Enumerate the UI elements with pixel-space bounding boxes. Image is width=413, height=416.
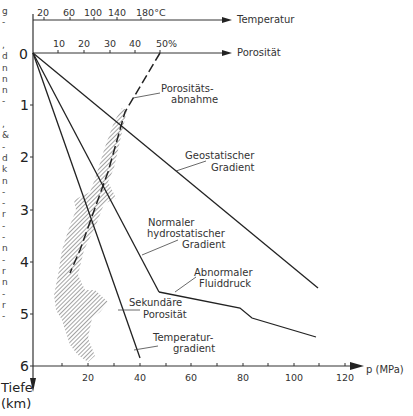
hydrostatic-label: Normaler [148,217,195,228]
temperature-gradient-label: gradient [173,343,215,354]
por-tick: 40 [129,38,141,49]
depth-tick: 1 [20,97,29,113]
pressure-tick: 60 [185,372,197,383]
margin-text-fragment: - [2,232,5,242]
depth-tick: 0 [19,46,28,62]
margin-text-fragment: n [2,277,8,287]
margin-text-fragment: - [2,289,5,299]
temperature-axis: 20 60 100 140 180°C Temperatur [33,7,295,25]
porosity-axis: 10 20 30 40 50% Porosität [33,38,281,58]
depth-tick: 4 [20,254,29,270]
margin-text-fragment: , [2,40,5,50]
pressure-tick: 80 [237,372,249,383]
geostatic-label: Geostatischer [185,150,255,161]
margin-text-fragment: - [2,221,5,231]
depth-tick: 3 [20,202,29,218]
depth-tick: 5 [20,306,29,322]
pressure-tick: 20 [82,372,94,383]
margin-text-fragment: n [2,243,8,253]
margin-text-fragment: - [2,198,5,208]
por-tick: 30 [104,38,116,49]
margin-text-fragment: r [2,266,6,276]
temp-tick: 140 [108,7,126,18]
margin-text-fragment: - [2,187,5,197]
hydrostatic-label: Gradient [182,239,226,250]
abnormal-pressure-label: Abnormaler [194,267,253,278]
porosity-decrease-label: abnahme [171,94,218,105]
pressure-tick: 100 [285,372,303,383]
margin-text-fragment: r [2,209,6,219]
margin-text-column: g-,dnnn-,&-dkn--r--n-rn-r- [2,6,9,321]
margin-text-fragment: - [2,255,5,265]
por-axis-label: Porosität [237,47,281,58]
por-tick: 10 [53,38,65,49]
margin-text-fragment: k [2,164,8,174]
margin-text-fragment: - [2,17,5,27]
temp-tick: 60 [63,7,75,18]
margin-text-fragment: d [2,153,8,163]
temp-tick: 180°C [136,7,166,18]
margin-text-fragment: d [2,51,8,61]
hydrostatic-label: hydrostatischer [147,228,226,239]
pressure-tick: 120 [336,372,354,383]
por-tick: 50% [156,38,177,49]
margin-text-fragment: n [2,63,8,73]
depth-pressure-diagram: g-,dnnn-,&-dkn--r--n-rn-r- 20 60 100 140… [0,0,413,416]
temperature-gradient-label: Temperatur- [152,332,214,343]
temp-tick: 20 [37,7,49,18]
por-tick: 20 [78,38,90,49]
depth-axis-label: Tiefe [0,380,33,395]
secondary-porosity-label: Porosität [143,309,187,320]
margin-text-fragment: r [2,300,6,310]
pressure-tick: 40 [134,372,146,383]
margin-text-fragment: & [2,130,9,140]
porosity-decrease-label: Porositäts- [161,83,214,94]
margin-text-fragment: n [2,176,8,186]
margin-text-fragment: - [2,96,5,106]
depth-tick: 6 [20,358,29,374]
depth-tick: 2 [20,149,29,165]
temp-tick: 100 [84,7,102,18]
margin-text-fragment: n [2,74,8,84]
pressure-axis: 20 40 60 80 100 120 p (MPa) [33,362,404,383]
margin-text-fragment: - [2,311,5,321]
margin-text-fragment: , [2,119,5,129]
margin-text-fragment: g [2,6,8,16]
hydrostatic-gradient-line [33,53,159,292]
margin-text-fragment: - [2,142,5,152]
geostatic-label: Gradient [211,162,255,173]
secondary-porosity-label: Sekundäre [129,297,182,308]
temp-axis-label: Temperatur [236,14,295,25]
depth-axis-unit: (km) [1,396,31,411]
porosity-hatched-band [54,108,127,362]
margin-text-fragment: n [2,85,8,95]
pressure-axis-label: p (MPa) [366,364,404,375]
abnormal-pressure-label: Fluiddruck [199,278,251,289]
